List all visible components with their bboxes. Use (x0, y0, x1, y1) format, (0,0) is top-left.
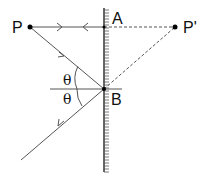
point-p-dot (28, 25, 33, 30)
label-p: P (12, 19, 23, 36)
mirror-reflection-diagram: P P' A B θ θ (0, 0, 206, 177)
angle-arc-incidence (75, 67, 78, 90)
point-b-dot (102, 87, 106, 91)
label-theta-incidence: θ (63, 72, 71, 88)
dashed-b-to-p-image (104, 27, 175, 89)
label-a: A (112, 10, 123, 27)
label-b: B (111, 91, 122, 108)
angle-arc-reflection (77, 89, 82, 106)
reflected-arrow-icon (58, 119, 64, 126)
point-p-image-dot (173, 25, 178, 30)
label-p-image: P' (183, 19, 197, 36)
point-a-dot (103, 26, 106, 29)
label-theta-reflection: θ (63, 91, 71, 107)
